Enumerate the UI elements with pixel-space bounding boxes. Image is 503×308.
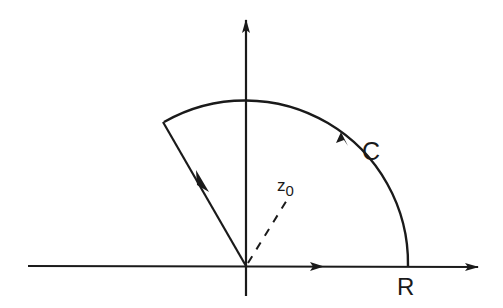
contour-diagram: C R z0 [0, 0, 503, 308]
point-label-z-main: z [277, 176, 286, 195]
radius-label-r: R [397, 273, 414, 300]
contour-ray [163, 122, 246, 266]
point-label-z-subscript: 0 [286, 182, 294, 199]
point-label-z: z0 [277, 176, 294, 199]
z0-dashed-line [248, 200, 287, 263]
real-axis [28, 266, 478, 267]
contour-label-c: C [362, 137, 380, 165]
